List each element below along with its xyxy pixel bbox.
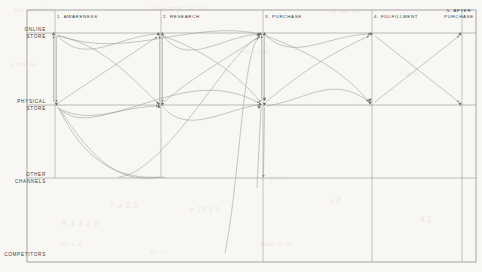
flow-arrow (58, 31, 260, 44)
flow-node (263, 103, 266, 106)
stage-gridlines (55, 10, 462, 262)
flow-arrow (225, 38, 258, 253)
flow-arrow (119, 37, 260, 177)
flow-node (161, 32, 164, 35)
flow-node (257, 106, 260, 109)
row-label-physical-store: PHYSICAL STORE (0, 99, 46, 112)
flow-node (458, 32, 461, 35)
flow-arrow (264, 107, 265, 177)
row-label-competitors: COMPETITORS (0, 252, 46, 259)
flow-node (161, 103, 164, 106)
flow-arrow (265, 34, 370, 47)
flow-line (59, 109, 160, 177)
flow-arrow (163, 34, 261, 50)
column-label-purchase: 3. PURCHASE (265, 14, 302, 20)
flow-node (157, 32, 160, 35)
flow-node (52, 32, 55, 35)
flow-line (257, 107, 261, 188)
flow-line (61, 111, 165, 178)
diagram-canvas: the and of ain to with for anof the toa … (0, 0, 482, 272)
column-label-after-purchase: 5. AFTER PURCHASE (437, 8, 481, 20)
diagram-frame (27, 10, 476, 262)
flow-arrows (54, 31, 460, 253)
row-label-online-store: ONLINE STORE (0, 27, 46, 40)
row-label-other-channels: OTHER CHANNELS (0, 172, 46, 185)
journey-flow-svg (0, 0, 482, 272)
flow-arrow (267, 89, 368, 106)
flow-node (263, 32, 266, 35)
flow-node (55, 103, 58, 106)
flow-arrow (163, 104, 261, 120)
flow-arrow (57, 106, 158, 118)
column-label-research: 2. RESEARCH (163, 14, 200, 20)
column-label-awareness: 1. AWARENESS (57, 14, 98, 20)
flow-node (258, 102, 261, 105)
flow-arrow (58, 37, 157, 103)
flow-arrow (57, 34, 159, 49)
flow-node (458, 103, 461, 106)
flow-node (263, 98, 266, 101)
flow-node (368, 102, 371, 105)
column-label-fulfillment: 4. FULFILLMENT (374, 14, 418, 20)
